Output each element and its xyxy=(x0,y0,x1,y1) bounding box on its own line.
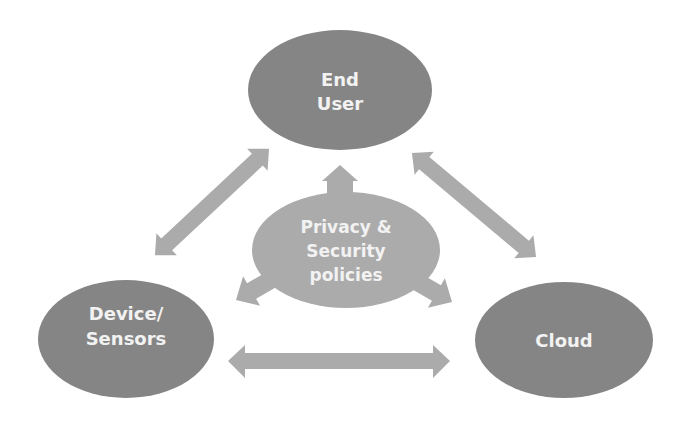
node-privacy-security-policies: Privacy & Security policies xyxy=(252,192,440,308)
node-device-sensors: Device/ Sensors xyxy=(38,280,214,398)
policies-label-line2: Security xyxy=(306,241,385,261)
arrow-device-cloud xyxy=(228,345,450,378)
end-user-ellipse xyxy=(248,30,432,150)
policies-label-line1: Privacy & xyxy=(300,217,391,237)
node-end-user: End User xyxy=(248,30,432,150)
device-label-line1: Device/ xyxy=(89,303,164,324)
iot-privacy-diagram: End User Privacy & Security policies Dev… xyxy=(0,0,691,423)
policies-label-line3: policies xyxy=(309,265,382,285)
end-user-label-line1: End xyxy=(321,69,359,90)
end-user-label-line2: User xyxy=(317,93,364,114)
node-cloud: Cloud xyxy=(475,282,653,398)
cloud-label: Cloud xyxy=(535,330,592,351)
device-label-line2: Sensors xyxy=(86,328,167,349)
